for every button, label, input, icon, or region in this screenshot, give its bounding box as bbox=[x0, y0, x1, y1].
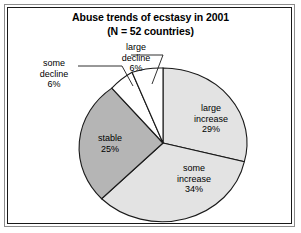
pie-label-large-increase-value: 29% bbox=[180, 124, 242, 135]
pie-label-large-decline: large decline 6% bbox=[114, 42, 158, 74]
pie-label-large-decline-line1: large bbox=[114, 42, 158, 53]
pie-label-large-decline-line2: decline bbox=[114, 53, 158, 64]
pie-chart-figure: Abuse trends of ecstasy in 2001 (N = 52 … bbox=[0, 0, 301, 233]
pie-label-some-increase-line2: increase bbox=[163, 174, 225, 185]
pie-label-stable-line1: stable bbox=[84, 133, 136, 144]
pie-label-large-increase: large increase 29% bbox=[180, 103, 242, 135]
pie-graphic bbox=[0, 0, 301, 233]
pie-label-some-increase-line1: some bbox=[163, 163, 225, 174]
pie-label-some-decline: some decline 6% bbox=[25, 58, 83, 90]
pie-label-some-decline-line2: decline bbox=[25, 69, 83, 80]
pie-label-some-increase: some increase 34% bbox=[163, 163, 225, 195]
pie-label-some-decline-value: 6% bbox=[25, 79, 83, 90]
pie-label-some-decline-line1: some bbox=[25, 58, 83, 69]
pie-label-some-increase-value: 34% bbox=[163, 184, 225, 195]
pie-label-large-increase-line1: large bbox=[180, 103, 242, 114]
pie-label-stable-value: 25% bbox=[84, 144, 136, 155]
pie-label-large-decline-value: 6% bbox=[114, 63, 158, 74]
pie-label-stable: stable 25% bbox=[84, 133, 136, 154]
pie-label-large-increase-line2: increase bbox=[180, 114, 242, 125]
